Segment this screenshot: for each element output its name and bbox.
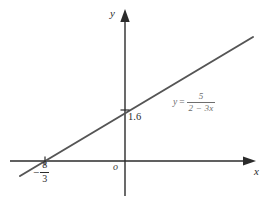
- plotted-line: [20, 37, 253, 176]
- origin-label: o: [113, 162, 118, 172]
- x-intercept-label: − 8 3: [33, 160, 49, 184]
- curve-equation-label: y = 5 2 − 3x: [173, 92, 215, 114]
- y-axis-label: y: [110, 8, 115, 19]
- equation-fraction: 5 2 − 3x: [187, 92, 216, 114]
- equation-lhs: y: [173, 98, 177, 108]
- x-intercept-denominator: 3: [40, 174, 49, 185]
- x-intercept-minus-sign: −: [33, 167, 39, 178]
- x-intercept-fraction: 8 3: [40, 160, 49, 184]
- x-axis-label: x: [254, 166, 259, 177]
- line-graph-figure: y x o 1.6 − 8 3 y = 5 2 − 3x: [0, 0, 269, 200]
- x-intercept-numerator: 8: [40, 160, 49, 171]
- equation-equals-sign: =: [179, 98, 184, 108]
- equation-denominator: 2 − 3x: [187, 104, 216, 113]
- equation-numerator: 5: [197, 92, 206, 101]
- y-axis-arrowhead: [120, 9, 129, 22]
- y-intercept-label: 1.6: [128, 112, 141, 123]
